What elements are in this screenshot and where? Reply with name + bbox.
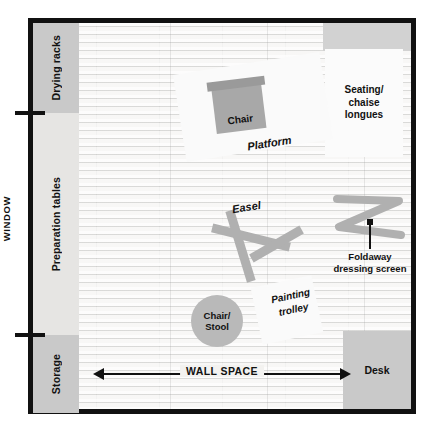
zone-preparation-tables: Preparation tables [33, 113, 79, 335]
wall-space-label: WALL SPACE [180, 365, 264, 377]
zone-storage-label: Storage [50, 354, 62, 394]
foldaway-dressing-screen-label: Foldawaydressing screen [315, 251, 425, 275]
seating-label: Seating/chaiselongues [345, 84, 384, 122]
zone-preparation-tables-label: Preparation tables [50, 177, 62, 271]
top-right-grey-band [323, 23, 411, 51]
window-extent-tick-bottom [15, 333, 45, 337]
zone-drying-racks: Drying racks [33, 23, 79, 113]
window-label: WINDOW [1, 196, 12, 241]
chair-label: Chair [227, 112, 254, 132]
chair-stool-shape: Chair/Stool [191, 295, 243, 347]
window-extent-tick-top [15, 111, 45, 115]
seating-chaise-longues-block: Seating/chaiselongues [325, 49, 403, 157]
chair-stool-label: Chair/Stool [204, 310, 231, 333]
zone-drying-racks-label: Drying racks [50, 35, 62, 100]
arrowhead-right-icon [340, 368, 351, 380]
desk-block: Desk [343, 331, 411, 409]
chair-shape: Chair [212, 84, 267, 134]
zone-storage: Storage [33, 335, 79, 413]
wall-space-dimension: WALL SPACE [93, 367, 351, 381]
room-outline: Drying racks Preparation tables Storage … [28, 18, 416, 414]
floor-plan-diagram: WINDOW Drying racks Preparation tables S… [0, 0, 433, 432]
desk-label: Desk [364, 364, 389, 376]
screen-leader-line [369, 225, 371, 249]
